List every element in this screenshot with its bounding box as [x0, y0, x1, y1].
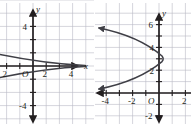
left-coordinate-plane: 2 2 4 4 -4 O x y	[0, 0, 95, 127]
y-tick-label-right-2: 2	[150, 66, 155, 76]
y-axis-label-left: y	[35, 4, 40, 14]
x-tick-label-left-neg2: 2	[3, 69, 8, 79]
origin-label-right: O	[148, 96, 155, 106]
y-tick-label-left-neg4: -4	[19, 101, 27, 111]
figure-root: 2 2 4 4 -4 O x y	[0, 0, 191, 127]
y-axis-label-right: y	[161, 8, 166, 18]
x-tick-label-right-neg4: -4	[102, 96, 110, 106]
right-coordinate-plane: -4 -2 2 6 4 2 -2 O y	[95, 0, 191, 127]
origin-label-left: O	[22, 69, 29, 79]
x-tick-label-right-neg2: -2	[128, 96, 136, 106]
x-tick-label-right-2: 2	[182, 96, 187, 106]
y-tick-label-right-4: 4	[150, 43, 155, 53]
graph-panel-left: 2 2 4 4 -4 O x y	[0, 0, 95, 127]
x-tick-label-left-4: 4	[69, 69, 74, 79]
y-tick-label-right-neg2: -2	[145, 111, 153, 121]
graph-panel-right: -4 -2 2 6 4 2 -2 O y	[95, 0, 191, 127]
y-tick-label-left-4: 4	[23, 22, 28, 32]
grid-lines-horizontal-left	[0, 0, 94, 119]
y-tick-label-right-6: 6	[149, 20, 154, 30]
grid-lines-horizontal-right	[95, 13, 191, 116]
x-tick-label-left-2: 2	[42, 69, 47, 79]
x-axis-label-left: x	[83, 61, 88, 71]
